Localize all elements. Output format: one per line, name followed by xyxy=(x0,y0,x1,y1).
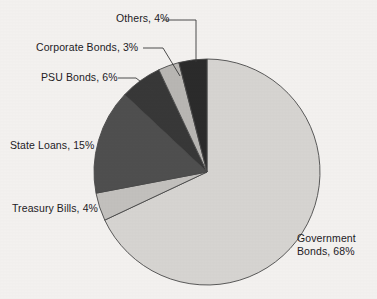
pie-slices-group xyxy=(94,59,320,285)
pie-label-others: Others, 4% xyxy=(116,12,170,25)
pie-label-corporate-bonds: Corporate Bonds, 3% xyxy=(36,41,138,54)
pie-label-psu-bonds: PSU Bonds, 6% xyxy=(41,71,118,84)
pie-label-government-bonds-line1: Government xyxy=(297,232,356,244)
pie-label-government-bonds-line2: Bonds, 68% xyxy=(297,245,355,257)
pie-chart: Others, 4% Corporate Bonds, 3% PSU Bonds… xyxy=(0,0,377,299)
pie-label-state-loans: State Loans, 15% xyxy=(10,139,95,152)
pie-label-treasury-bills: Treasury Bills, 4% xyxy=(12,202,98,215)
pie-label-government-bonds: GovernmentBonds, 68% xyxy=(297,232,375,258)
